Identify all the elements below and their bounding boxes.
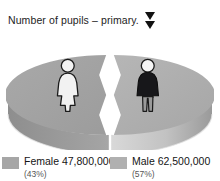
triangle-down-icon-top — [145, 12, 155, 20]
legend-text-male: Male 62,500,000 (57%) — [132, 155, 210, 179]
legend-percent-female: (43%) — [24, 169, 114, 179]
chart-legend: Female 47,800,000 (43%) Male 62,500,000 … — [0, 155, 220, 181]
double-triangle-down-icon[interactable] — [144, 12, 157, 34]
pie-svg — [6, 40, 214, 150]
chart-header: Number of pupils – primary. — [8, 14, 214, 32]
legend-swatch-male — [110, 157, 127, 169]
legend-percent-male: (57%) — [132, 169, 210, 179]
page-title: Number of pupils – primary. — [8, 14, 139, 27]
legend-label-female: Female 47,800,000 — [24, 155, 114, 168]
legend-label-male: Male 62,500,000 — [132, 155, 210, 168]
legend-text-female: Female 47,800,000 (43%) — [24, 155, 114, 179]
pie-graphic — [6, 40, 214, 150]
pie-chart-figure: Number of pupils – primary. — [0, 0, 220, 181]
legend-item-male[interactable]: Male 62,500,000 (57%) — [110, 155, 210, 179]
legend-swatch-female — [2, 157, 19, 169]
triangle-down-icon-bottom — [145, 21, 155, 29]
legend-item-female[interactable]: Female 47,800,000 (43%) — [2, 155, 110, 179]
